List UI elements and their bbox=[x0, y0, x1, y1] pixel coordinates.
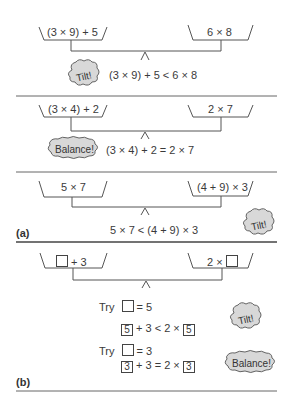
try-line: Try = 5 bbox=[99, 300, 152, 313]
diagram-lines bbox=[0, 0, 296, 402]
balance-label: Balance! bbox=[232, 358, 271, 369]
right-pan-expression: 6 × 8 bbox=[207, 26, 232, 38]
value-box: 5 bbox=[183, 324, 195, 336]
trial-equation: 3 + 3 = 2 × 3 bbox=[121, 359, 195, 373]
balance-label: Balance! bbox=[55, 144, 94, 155]
trial-equation: 5 + 3 < 2 × 5 bbox=[121, 322, 195, 336]
equation: 5 × 7 < (4 + 9) × 3 bbox=[110, 224, 198, 236]
beam bbox=[71, 40, 221, 51]
unknown-box bbox=[122, 344, 134, 356]
beam bbox=[72, 196, 221, 207]
left-pan-expression: + 3 bbox=[56, 255, 87, 268]
left-pan-expression: 5 × 7 bbox=[61, 181, 86, 193]
value-box: 3 bbox=[183, 361, 195, 373]
right-pan-expression: (4 + 9) × 3 bbox=[197, 181, 248, 193]
equation: (3 × 4) + 2 = 2 × 7 bbox=[106, 144, 194, 156]
left-pan-expression: (3 × 4) + 2 bbox=[48, 103, 99, 115]
fulcrum-icon bbox=[141, 52, 149, 60]
beam bbox=[73, 268, 222, 280]
value-box: 3 bbox=[121, 361, 133, 373]
equation: (3 × 9) + 5 < 6 × 8 bbox=[109, 69, 197, 81]
part-label-b: (b) bbox=[16, 376, 30, 388]
part-label-a: (a) bbox=[16, 227, 29, 239]
unknown-box bbox=[226, 255, 238, 267]
beam bbox=[71, 117, 221, 131]
try-line: Try = 3 bbox=[99, 344, 152, 357]
unknown-box bbox=[56, 255, 68, 267]
fulcrum-icon bbox=[141, 208, 149, 215]
fulcrum-icon bbox=[142, 281, 150, 288]
fulcrum-icon bbox=[141, 132, 149, 139]
value-box: 5 bbox=[121, 324, 133, 336]
right-pan-expression: 2 × bbox=[207, 255, 238, 268]
left-pan-expression: (3 × 9) + 5 bbox=[47, 26, 98, 38]
unknown-box bbox=[122, 300, 134, 312]
right-pan-expression: 2 × 7 bbox=[208, 103, 233, 115]
